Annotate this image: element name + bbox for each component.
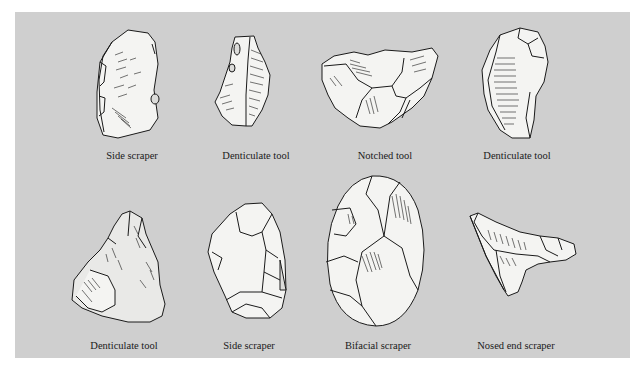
caption-nosed-end-scraper: Nosed end scraper <box>441 340 591 351</box>
